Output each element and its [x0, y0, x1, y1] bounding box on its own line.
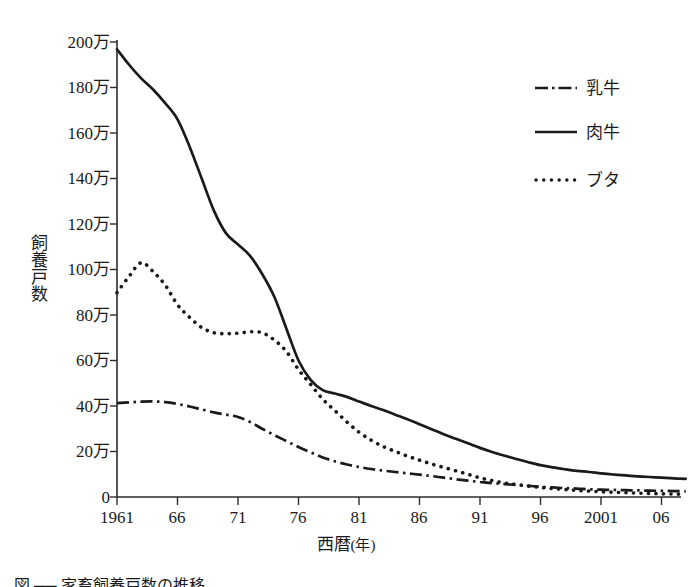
x-tick-label-1971: 71 — [230, 509, 247, 526]
x-tick-label-1991: 91 — [472, 509, 489, 526]
y-axis-ticks — [110, 42, 117, 497]
x-tick-label-2006: 06 — [653, 509, 670, 526]
legend-item-beef-cattle: 肉牛 — [534, 120, 620, 144]
x-tick-label-1996: 96 — [532, 509, 549, 526]
chart-figure: 飼養戸数 200万 180万 160万 140万 120万 100万 80万 6… — [0, 0, 692, 587]
legend-item-dairy-cattle: 乳牛 — [534, 76, 620, 100]
series-line-dairy-cattle — [117, 401, 686, 491]
x-tick-label-1961: 1961 — [100, 509, 134, 526]
legend-label-pig: ブタ — [586, 172, 620, 189]
series-line-beef-cattle — [117, 49, 686, 479]
x-tick-label-2001: 2001 — [584, 509, 618, 526]
data-series-layer — [117, 49, 686, 494]
x-axis-title-unit: (年) — [351, 537, 376, 553]
legend-sample-dotted-icon — [534, 173, 578, 187]
legend-label-dairy-cattle: 乳牛 — [586, 80, 620, 97]
x-tick-label-1981: 81 — [351, 509, 368, 526]
legend-sample-solid-icon — [534, 125, 578, 139]
x-tick-label-1966: 66 — [169, 509, 186, 526]
x-axis-ticks — [117, 497, 662, 505]
series-line-pig — [117, 263, 686, 495]
x-tick-label-1976: 76 — [290, 509, 307, 526]
legend-sample-dash-dot-icon — [534, 81, 578, 95]
x-axis-title-main: 西暦 — [317, 535, 351, 554]
legend-label-beef-cattle: 肉牛 — [586, 124, 620, 141]
x-axis-title: 西暦(年) — [0, 530, 692, 555]
x-tick-label-1986: 86 — [411, 509, 428, 526]
legend-item-pig: ブタ — [534, 168, 620, 192]
figure-caption: 図 ── 家畜飼養戸数の推移 — [14, 572, 205, 587]
